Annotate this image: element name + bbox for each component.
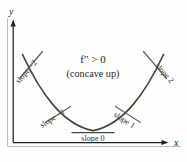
slope-label-neg-1: slope −1 — [38, 107, 67, 129]
y-axis-label: y — [8, 6, 14, 17]
slope-label-2: slope 2 — [153, 61, 175, 85]
concave-up-figure: y x f″ > 0 (concave up) slope −2 slope −… — [0, 0, 187, 162]
x-axis-label: x — [173, 137, 179, 148]
second-derivative-annotation: f″ > 0 — [80, 53, 106, 65]
figure-frame — [8, 18, 182, 147]
slope-label-0: slope 0 — [81, 134, 104, 143]
concavity-annotation: (concave up) — [67, 68, 120, 80]
